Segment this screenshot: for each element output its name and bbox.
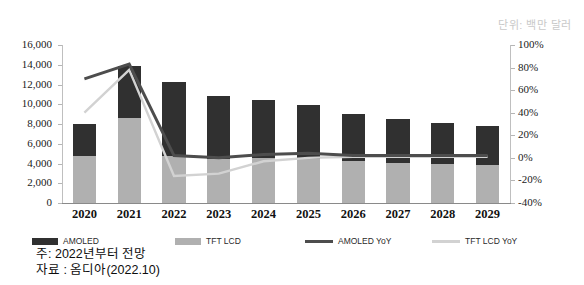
y-axis-right-tick-label: -20% [518, 174, 574, 185]
footnote-note: 주: 2022년부터 전망 [36, 246, 160, 262]
y-axis-right-tick [511, 68, 515, 69]
y-axis-right-tick [511, 90, 515, 91]
legend-label: AMOLED YoY [338, 236, 391, 246]
legend-item[interactable]: AMOLED YoY [305, 236, 391, 246]
y-axis-left-tick-label: 10,000 [0, 98, 52, 109]
y-axis-left-tick-label: 12,000 [0, 79, 52, 90]
line-series-tft-lcd-yoy [84, 70, 487, 176]
x-axis-tick-label: 2027 [376, 207, 421, 222]
x-axis-tick-label: 2021 [107, 207, 152, 222]
y-axis-right-tick-label: 40% [518, 107, 574, 118]
y-axis-left-tick-label: 16,000 [0, 39, 52, 50]
x-axis-tick-label: 2026 [331, 207, 376, 222]
x-axis-tick-label: 2020 [62, 207, 107, 222]
line-series-amoled-yoy [84, 64, 487, 158]
x-axis-tick-label: 2029 [465, 207, 510, 222]
y-axis-right-tick [511, 135, 515, 136]
x-axis-tick-label: 2028 [420, 207, 465, 222]
y-axis-left-tick-label: 4,000 [0, 158, 52, 169]
x-axis-tick-label: 2025 [286, 207, 331, 222]
y-axis-left-tick-label: 14,000 [0, 59, 52, 70]
y-axis-right-tick [511, 180, 515, 181]
y-axis-right-tick-label: 60% [518, 84, 574, 95]
legend-label: AMOLED [63, 236, 99, 246]
x-axis-tick-label: 2023 [196, 207, 241, 222]
x-axis-tick-label: 2022 [152, 207, 197, 222]
legend-item[interactable]: TFT LCD YoY [432, 236, 517, 246]
legend-item[interactable]: AMOLED [32, 236, 99, 246]
legend-bar-swatch-icon [32, 238, 58, 245]
y-axis-left-tick-label: 0 [0, 197, 52, 208]
y-axis-right-tick-label: 0% [518, 152, 574, 163]
y-axis-right-tick [511, 158, 515, 159]
y-axis-left-tick-label: 2,000 [0, 177, 52, 188]
footnotes: 주: 2022년부터 전망 자료 : 옴디아(2022.10) [36, 246, 160, 278]
y-axis-right-tick [511, 203, 515, 204]
y-axis-right-tick-label: 80% [518, 62, 574, 73]
legend-line-swatch-icon [305, 240, 333, 243]
legend-label: TFT LCD [206, 236, 241, 246]
y-axis-right-tick-label: 100% [518, 39, 574, 50]
y-axis-left-tick [58, 203, 62, 204]
unit-label: 단위: 백만 달러 [498, 16, 572, 32]
x-axis-line [62, 203, 511, 204]
legend-item[interactable]: TFT LCD [175, 236, 241, 246]
chart-container: 단위: 백만 달러 02,0004,0006,0008,00010,00012,… [0, 0, 584, 285]
y-axis-right-tick-label: 20% [518, 129, 574, 140]
legend-line-swatch-icon [432, 240, 460, 243]
y-axis-left-tick-label: 6,000 [0, 138, 52, 149]
legend-bar-swatch-icon [175, 238, 201, 245]
lines-layer [62, 45, 510, 203]
footnote-source: 자료 : 옴디아(2022.10) [36, 262, 160, 278]
y-axis-right-tick [511, 45, 515, 46]
y-axis-left-tick-label: 8,000 [0, 118, 52, 129]
legend-label: TFT LCD YoY [465, 236, 517, 246]
x-axis-tick-label: 2024 [241, 207, 286, 222]
y-axis-right-tick [511, 113, 515, 114]
y-axis-right-tick-label: -40% [518, 197, 574, 208]
